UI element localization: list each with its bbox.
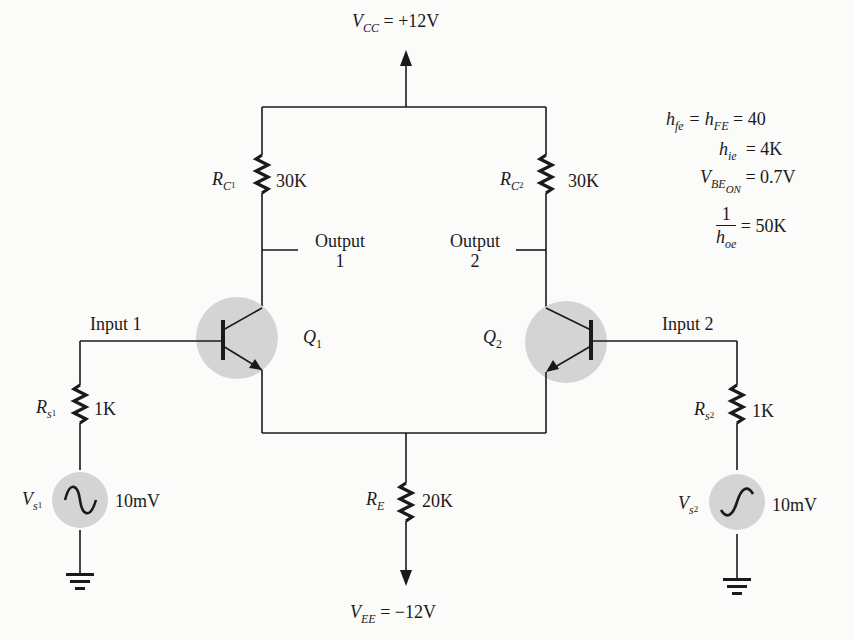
- param-hfe: hfe = hFE = 40: [666, 110, 766, 128]
- rc2-value: 30K: [568, 172, 599, 190]
- rs2-value: 1K: [752, 402, 774, 420]
- q1-transistor-icon: [196, 297, 278, 379]
- output2-label: Output 2: [440, 232, 510, 270]
- rc1-value: 30K: [276, 172, 307, 190]
- rc1-label: RC1: [212, 170, 236, 188]
- vs1-label: Vs1: [22, 490, 42, 508]
- vs2-value: 10mV: [772, 496, 817, 514]
- vs2-label: Vs2: [678, 494, 698, 512]
- param-hie: hie = 4K: [719, 140, 782, 158]
- re-resistor-icon: [400, 483, 412, 521]
- output1-label: Output 1: [305, 232, 375, 270]
- rc2-resistor-icon: [540, 155, 552, 193]
- rs2-resistor-icon: [731, 385, 743, 423]
- vs2-source-icon: [709, 474, 765, 530]
- ground2-icon: [723, 578, 751, 595]
- param-hoe: 1 hoe = 50K: [716, 205, 786, 246]
- re-label: RE: [366, 490, 384, 508]
- q2-transistor-icon: [525, 301, 607, 383]
- hoe-fraction: 1 hoe: [716, 205, 736, 246]
- input1-label: Input 1: [90, 315, 142, 333]
- q1-label: Q1: [303, 328, 322, 346]
- param-vbe: VBEON = 0.7V: [700, 168, 796, 186]
- ground1-icon: [66, 573, 94, 590]
- rs1-label: Rs1: [36, 398, 56, 416]
- rc1-resistor-icon: [256, 155, 268, 193]
- rc2-label: RC2: [500, 170, 524, 188]
- input2-label: Input 2: [662, 315, 714, 333]
- rs1-resistor-icon: [74, 385, 86, 423]
- vcc-label: VCC = +12V: [352, 12, 439, 30]
- vs1-source-icon: [52, 472, 108, 528]
- rs2-label: Rs2: [694, 400, 714, 418]
- vcc-arrow-icon: [400, 50, 412, 66]
- vee-label: VEE = −12V: [350, 603, 436, 621]
- vee-arrow-icon: [400, 570, 412, 586]
- rs1-value: 1K: [94, 400, 116, 418]
- q2-label: Q2: [483, 328, 502, 346]
- re-value: 20K: [422, 492, 453, 510]
- vs1-value: 10mV: [115, 492, 160, 510]
